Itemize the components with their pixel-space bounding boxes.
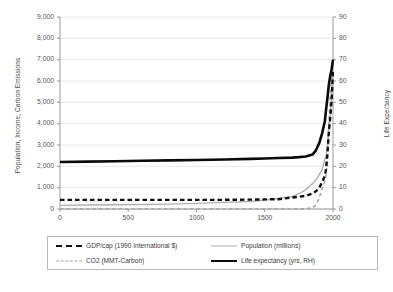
y-axis-left-tick-label: 6,000 bbox=[20, 77, 54, 84]
legend-item-population: Population (millions) bbox=[211, 242, 300, 249]
y-axis-right-tick-label: 50 bbox=[339, 98, 365, 105]
x-axis-tick-label: 2000 bbox=[313, 214, 353, 221]
y-axis-left-tick-label: 5,000 bbox=[20, 98, 54, 105]
y-axis-left-tick-label: 0 bbox=[20, 205, 54, 212]
y-axis-left-tick-label: 2,000 bbox=[20, 162, 54, 169]
y-axis-right-tick-label: 80 bbox=[339, 34, 365, 41]
chart-legend: GDP/cap (1990 International $) Populatio… bbox=[47, 236, 378, 270]
legend-swatch-co2-icon bbox=[56, 257, 82, 264]
x-axis-tick-label: 1500 bbox=[245, 214, 285, 221]
y-axis-right-title: Life Expectancy bbox=[383, 34, 390, 194]
series-line-population-millions bbox=[60, 79, 333, 205]
x-axis-tick-label: 0 bbox=[40, 214, 80, 221]
series-line-life-expectancy-yrs-rh bbox=[60, 60, 333, 162]
legend-label-co2: CO2 (MMT-Carbon) bbox=[86, 257, 144, 264]
legend-swatch-life-expectancy-icon bbox=[211, 257, 237, 264]
y-axis-left-tick-label: 8,000 bbox=[20, 34, 54, 41]
y-axis-left-tick-label: 1,000 bbox=[20, 183, 54, 190]
legend-item-life-expectancy: Life expectancy (yrs, RH) bbox=[211, 257, 315, 264]
legend-swatch-population-icon bbox=[211, 242, 237, 249]
y-axis-left-tick-label: 9,000 bbox=[20, 13, 54, 20]
y-axis-left-tick-label: 7,000 bbox=[20, 55, 54, 62]
legend-label-life-expectancy: Life expectancy (yrs, RH) bbox=[241, 257, 315, 264]
x-axis-tick-label: 500 bbox=[108, 214, 148, 221]
chart-container: Population, Income, Carbon Emissions Lif… bbox=[0, 0, 393, 292]
y-axis-left-tick-label: 3,000 bbox=[20, 141, 54, 148]
legend-label-gdp: GDP/cap (1990 International $) bbox=[86, 242, 177, 249]
legend-swatch-gdp-icon bbox=[56, 242, 82, 249]
y-axis-left-tick-label: 4,000 bbox=[20, 119, 54, 126]
y-axis-right-tick-label: 0 bbox=[339, 205, 365, 212]
y-axis-right-tick-label: 60 bbox=[339, 77, 365, 84]
series-line-gdp-cap-1990-international bbox=[60, 70, 333, 200]
y-axis-right-tick-label: 40 bbox=[339, 119, 365, 126]
y-axis-right-tick-label: 10 bbox=[339, 183, 365, 190]
legend-item-co2: CO2 (MMT-Carbon) bbox=[56, 257, 144, 264]
y-axis-right-tick-label: 20 bbox=[339, 162, 365, 169]
y-axis-right-tick-label: 30 bbox=[339, 141, 365, 148]
x-axis-tick-label: 1000 bbox=[177, 214, 217, 221]
y-axis-right-tick-label: 90 bbox=[339, 13, 365, 20]
y-axis-right-tick-label: 70 bbox=[339, 55, 365, 62]
legend-item-gdp: GDP/cap (1990 International $) bbox=[56, 242, 177, 249]
legend-label-population: Population (millions) bbox=[241, 242, 300, 249]
